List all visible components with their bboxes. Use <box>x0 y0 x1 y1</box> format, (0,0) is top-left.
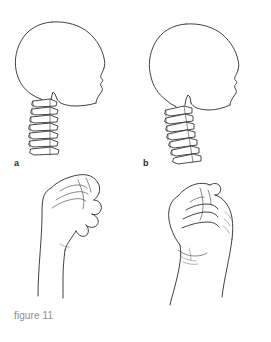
panel-label-a: a <box>14 159 19 168</box>
cervical-spine-right <box>165 106 201 164</box>
cervical-spine-left <box>29 99 59 155</box>
figure-illustration: a b figure 11 <box>0 0 271 342</box>
figure-caption: figure 11 <box>14 311 53 321</box>
hand-clenched-fist-right <box>169 183 233 305</box>
hand-open-fist-left <box>38 175 101 298</box>
figure-canvas <box>0 0 271 342</box>
panel-label-b: b <box>143 159 149 168</box>
skull-profile-right <box>149 24 238 110</box>
skull-profile-left <box>15 22 104 106</box>
